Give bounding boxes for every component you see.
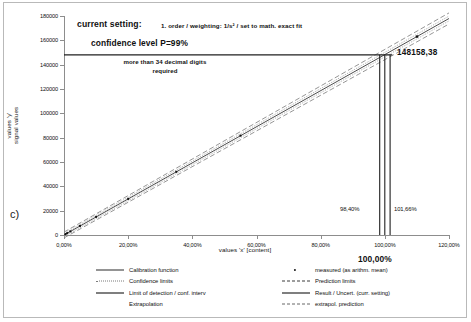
y-tick-label: 80000	[43, 135, 58, 141]
y-tick-label: 0	[55, 232, 58, 238]
x-tick	[192, 235, 193, 239]
x-tick	[128, 235, 129, 239]
x-tick-label: 120,00%	[438, 242, 459, 248]
x-tick-label: 80,00%	[311, 242, 329, 248]
legend-key	[282, 299, 312, 309]
x-tick	[385, 235, 386, 239]
x-tick	[321, 235, 322, 239]
annotation-result-value: 148158,38	[397, 48, 438, 57]
annotation-upper-percent: 101,66%	[394, 206, 417, 212]
x-tick-label: 20,00%	[119, 242, 137, 248]
confidence-limit-upper	[64, 16, 449, 233]
x-tick	[257, 235, 258, 239]
y-tick-label: 120000	[40, 86, 58, 92]
legend-label: measured (as arithm. mean)	[315, 267, 388, 273]
legend-line-dashed-wide	[282, 281, 310, 282]
legend-key	[96, 288, 126, 298]
legend-label: Confidence limits	[129, 278, 173, 284]
legend-label: Extrapolation	[129, 301, 163, 307]
legend-line-solid-thick	[282, 292, 310, 293]
legend-line-solid-thick	[96, 292, 124, 293]
calibration-function-line	[64, 19, 449, 236]
annotation-lower-percent: 98,40%	[340, 206, 359, 212]
prediction-limit-lower	[64, 24, 449, 238]
x-tick-label: 100,00%	[374, 242, 395, 248]
legend-item[interactable]: Extrapolation	[96, 299, 266, 311]
panel-label: c)	[10, 208, 19, 220]
x-tick-label: 60,00%	[247, 242, 265, 248]
y-axis-title-line2: signal values	[12, 79, 19, 171]
legend-line-dotted	[96, 281, 124, 282]
legend-label: Result / Uncert. (curr. setting)	[315, 290, 390, 296]
legend-item[interactable]: Calibration function	[96, 264, 266, 276]
legend-line-solid-thin	[96, 269, 124, 270]
annotation-current-setting-label: current setting:	[77, 19, 142, 29]
y-tick-label: 100000	[40, 110, 58, 116]
x-tick-label: 40,00%	[183, 242, 201, 248]
legend-column-left: Calibration functionConfidence limitsLim…	[96, 264, 266, 310]
x-tick	[449, 235, 450, 239]
annotation-target-percent: 100,00%	[358, 254, 392, 264]
y-tick-label: 140000	[40, 62, 58, 68]
annotation-decimal-note: more than 34 decimal digits required	[90, 58, 240, 75]
legend-line-dashed	[282, 304, 310, 305]
confidence-limit-lower	[64, 21, 449, 237]
annotation-confidence-level: confidence level P=99%	[91, 38, 188, 48]
legend-marker-dot	[294, 269, 296, 271]
y-tick-label: 40000	[43, 183, 58, 189]
legend-item[interactable]: Confidence limits	[96, 276, 266, 288]
plot-area: 0200004000060000800001000001200001400001…	[64, 16, 449, 235]
legend-key	[282, 265, 312, 275]
x-tick-label: 0,00%	[56, 242, 71, 248]
legend-key	[282, 288, 312, 298]
legend-item[interactable]: extrapol. prediction	[282, 299, 452, 311]
legend-key	[96, 299, 126, 309]
legend-item[interactable]: Result / Uncert. (curr. setting)	[282, 287, 452, 299]
y-axis-title: values 'y' signal values	[5, 79, 20, 171]
legend-column-right: measured (as arithm. mean)Prediction lim…	[282, 264, 452, 310]
legend-label: extrapol. prediction	[315, 301, 364, 307]
series-canvas	[64, 16, 449, 235]
legend-line-blank	[96, 304, 124, 305]
y-tick-label: 60000	[43, 159, 58, 165]
legend-item[interactable]: Limit of detection / conf. interv	[96, 287, 266, 299]
y-axis-title-line1: values 'y'	[5, 79, 12, 171]
legend-key	[96, 265, 126, 275]
chart-screenshot: c) values 'y' signal values values 'x' […	[0, 0, 471, 322]
annotation-decimal-note-line1: more than 34 decimal digits	[90, 58, 240, 67]
legend-label: Prediction limits	[315, 278, 355, 284]
annotation-decimal-note-line2: required	[90, 67, 240, 76]
y-tick-label: 180000	[40, 13, 58, 19]
legend-key	[96, 276, 126, 286]
legend-item[interactable]: measured (as arithm. mean)	[282, 264, 452, 276]
legend-item[interactable]: Prediction limits	[282, 276, 452, 288]
legend-label: Limit of detection / conf. interv	[129, 290, 206, 296]
chart-legend: Calibration functionConfidence limitsLim…	[96, 264, 448, 310]
y-tick-label: 160000	[40, 37, 58, 43]
legend-key	[282, 276, 312, 286]
annotation-current-setting-value: 1. order / weighting: 1/s² / set to math…	[161, 22, 302, 29]
legend-label: Calibration function	[129, 267, 178, 273]
y-tick-label: 20000	[43, 208, 58, 214]
